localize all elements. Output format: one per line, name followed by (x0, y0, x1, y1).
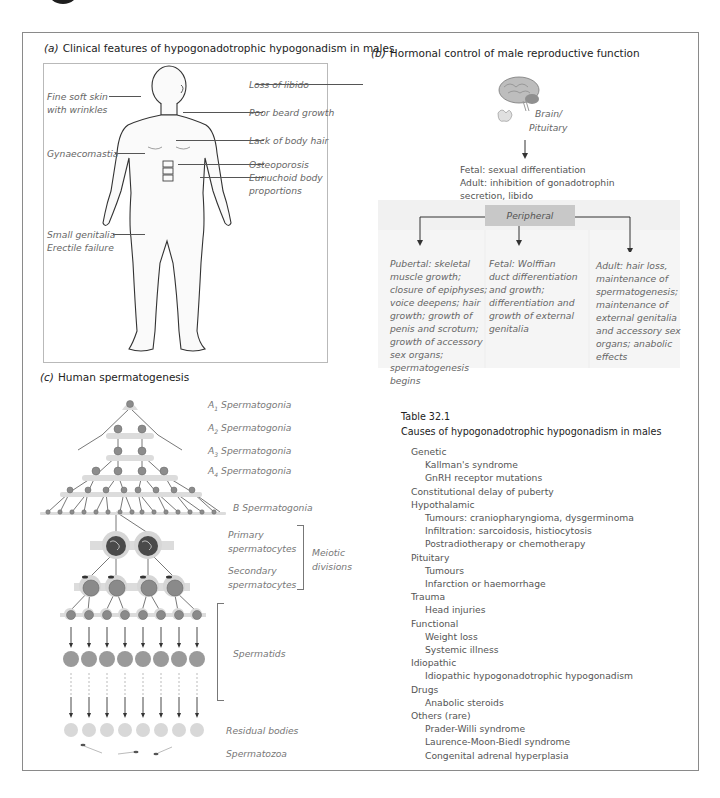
table-row: Idiopathic (411, 656, 661, 669)
text-line: voice deepens; hair (390, 296, 487, 309)
text-line: maintenance of (596, 272, 681, 285)
text-line: differentiation and (489, 296, 578, 309)
label-line: Eunuchoid body (249, 171, 323, 184)
label-osteoporosis: Osteoporosis (249, 158, 309, 171)
table-row: Head injuries (411, 603, 661, 616)
label-spermatids: Spermatids (233, 648, 285, 659)
text-line: Fetal: sexual differentiation (460, 163, 615, 176)
causes-table: Table 32.1 Causes of hypogonadotrophic h… (401, 409, 661, 762)
spermatogenesis-diagram (30, 395, 230, 775)
table-row: Trauma (411, 590, 661, 603)
label-erectile-failure: Erectile failure (47, 241, 114, 254)
stage-sub: 3 (214, 451, 218, 458)
text-line: effects (596, 350, 681, 363)
text-line: spermatogenesis; (596, 285, 681, 298)
panel-b-label: (b) (371, 47, 386, 59)
label-lack-of-body-hair: Lack of body hair (249, 134, 328, 147)
label-a1-spermatogonia: A1 Spermatogonia (208, 399, 291, 412)
label-poor-beard-growth: Poor beard growth (249, 106, 334, 119)
label-primary-spermatocytes: Primary spermatocytes (228, 528, 296, 556)
panel-c-title: (c)Human spermatogenesis (40, 371, 189, 383)
label-line: with wrinkles (47, 103, 108, 116)
text-line: Adult: inhibition of gonadotrophin (460, 176, 615, 189)
label-line: spermatocytes (228, 542, 296, 556)
table-rows: Genetic Kallman's syndrome GnRH receptor… (401, 445, 661, 762)
adult-effects: Adult: hair loss, maintenance of spermat… (596, 259, 681, 363)
text-line: and accessory sex (596, 324, 681, 337)
label-spermatozoa: Spermatozoa (226, 748, 287, 759)
text-line: maintenance of (596, 298, 681, 311)
label-gynaecomastia: Gynaecomastia (47, 147, 119, 160)
text-line: Adult: hair loss, (596, 259, 681, 272)
meiotic-bracket (297, 525, 304, 590)
text-line: closure of epiphyses; (390, 283, 487, 296)
text-line: begins (390, 374, 487, 387)
table-title: Causes of hypogonadotrophic hypogonadism… (401, 424, 661, 439)
text-line: Pubertal: skeletal (390, 257, 487, 270)
label-b-spermatogonia: B Spermatogonia (233, 502, 313, 513)
label-a2-spermatogonia: A2 Spermatogonia (208, 422, 291, 435)
table-number: Table 32.1 (401, 409, 661, 424)
leader-line (115, 153, 145, 154)
table-row: Others (rare) (411, 709, 661, 722)
panel-b-title-text: Hormonal control of male reproductive fu… (390, 47, 640, 59)
panel-a-title: (a)Clinical features of hypogonadotrophi… (44, 42, 394, 54)
table-row: Congenital adrenal hyperplasia (411, 749, 661, 762)
table-row: Constitutional delay of puberty (411, 485, 661, 498)
table-row: GnRH receptor mutations (411, 471, 661, 484)
leader-line (113, 234, 145, 235)
peripheral-branch-arrows (410, 212, 640, 252)
text-line: organs; anabolic (596, 337, 681, 350)
table-row: Tumours (411, 564, 661, 577)
brain-pituitary-label: Brain/ Pituitary (529, 107, 568, 135)
label-line: Meiotic (312, 546, 352, 560)
spermatids-bracket (217, 603, 224, 701)
table-row: Weight loss (411, 630, 661, 643)
chapter-badge (48, 0, 78, 4)
table-row: Pituitary (411, 551, 661, 564)
label-residual-bodies: Residual bodies (226, 725, 298, 736)
arrow-down-icon (520, 140, 530, 160)
table-row: Tumours: craniopharyngioma, dysgerminoma (411, 511, 661, 524)
table-row: Postradiotherapy or chemotherapy (411, 537, 661, 550)
pubertal-effects: Pubertal: skeletal muscle growth; closur… (390, 257, 487, 387)
table-row: Anabolic steroids (411, 696, 661, 709)
stage-sub: 2 (214, 428, 218, 435)
leader-line (109, 96, 141, 97)
table-row: Prader-Willi syndrome (411, 722, 661, 735)
panel-c-label: (c) (40, 371, 54, 383)
label-line: Primary (228, 528, 296, 542)
label-a3-spermatogonia: A3 Spermatogonia (208, 445, 291, 458)
panel-c-title-text: Human spermatogenesis (58, 371, 189, 383)
panel-a-title-text: Clinical features of hypogonadotrophic h… (63, 42, 395, 54)
central-effects-text: Fetal: sexual differentiation Adult: inh… (460, 163, 615, 202)
stage-label: Spermatogonia (221, 422, 291, 433)
label-line: Fine soft skin (47, 90, 108, 103)
label-line: spermatocytes (228, 578, 296, 592)
table-row: Idiopathic hypogonadotrophic hypogonadis… (411, 669, 661, 682)
stage-sub: 1 (214, 405, 218, 412)
label-loss-of-libido: Loss of libido (249, 78, 309, 91)
table-row: Hypothalamic (411, 498, 661, 511)
label-line: Brain/ (529, 107, 568, 121)
table-row: Infarction or haemorrhage (411, 577, 661, 590)
table-row: Genetic (411, 445, 661, 458)
stage-sub: 4 (214, 471, 218, 478)
text-line: external genitalia (596, 311, 681, 324)
label-fine-soft-skin: Fine soft skin with wrinkles (47, 90, 108, 116)
text-line: duct differentiation (489, 270, 578, 283)
label-line: Pituitary (529, 121, 568, 135)
text-line: growth of external (489, 309, 578, 322)
table-row: Kallman's syndrome (411, 458, 661, 471)
stage-label: Spermatogonia (221, 445, 291, 456)
label-meiotic-divisions: Meiotic divisions (312, 546, 352, 574)
table-row: Infiltration: sarcoidosis, histiocytosis (411, 524, 661, 537)
label-line: Secondary (228, 564, 296, 578)
text-line: sex organs; (390, 348, 487, 361)
text-line: penis and scrotum; (390, 322, 487, 335)
label-small-genitalia: Small genitalia (47, 228, 115, 241)
text-line: and growth; (489, 283, 578, 296)
text-line: growth of accessory (390, 335, 487, 348)
panel-b-title: (b)Hormonal control of male reproductive… (371, 47, 640, 59)
stage-label: Spermatogonia (221, 465, 291, 476)
